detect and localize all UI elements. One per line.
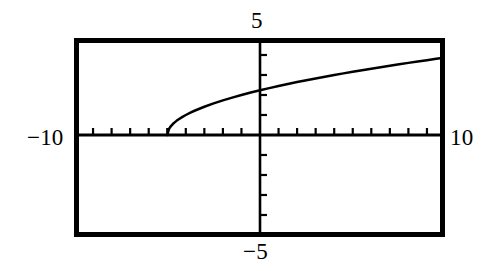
y-min-label: −5	[243, 240, 268, 263]
x-min-label: −10	[27, 126, 64, 149]
x-max-label: 10	[450, 126, 473, 149]
graph-figure: 5 −5 −10 10	[0, 0, 484, 271]
plot-canvas	[0, 0, 484, 271]
y-max-label: 5	[251, 9, 263, 32]
